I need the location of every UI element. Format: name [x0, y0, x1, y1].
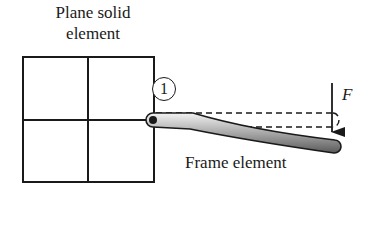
plane-solid-mesh [23, 57, 154, 182]
node-number-badge: 1 [152, 77, 176, 101]
node-1-dot [149, 116, 157, 124]
frame-element-beam [146, 113, 341, 153]
force-label: F [342, 85, 352, 105]
frame-element-label: Frame element [185, 153, 287, 173]
